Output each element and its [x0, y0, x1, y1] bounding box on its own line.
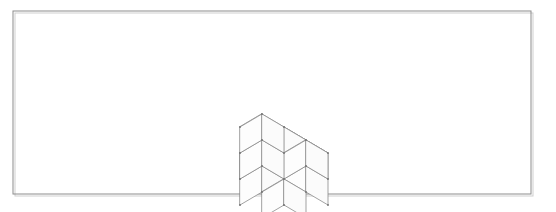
- cube-vertex-dot: [283, 204, 285, 206]
- cube-vertex-dot: [283, 126, 285, 128]
- cube-vertex-dot: [327, 152, 329, 154]
- cube-vertex-dot: [261, 139, 263, 141]
- cube-vertex-dot: [239, 204, 241, 206]
- cube-vertex-dot: [283, 178, 285, 180]
- figure-canvas: [0, 0, 556, 212]
- cube-group: [240, 114, 328, 212]
- cube-vertex-dot: [327, 178, 329, 180]
- cube-vertex-dot: [305, 139, 307, 141]
- cube-vertex-dot: [239, 126, 241, 128]
- isometric-cube-stack-figure: [0, 0, 556, 212]
- cube-vertex-dot: [261, 191, 263, 193]
- cube-vertex-dot: [305, 191, 307, 193]
- cube-vertex-dot: [239, 178, 241, 180]
- cube-vertex-dot: [239, 152, 241, 154]
- cube-vertex-dot: [261, 113, 263, 115]
- cube-vertex-dot: [261, 165, 263, 167]
- cube-vertex-dot: [327, 204, 329, 206]
- cube-vertex-dot: [305, 165, 307, 167]
- cube-vertex-dot: [283, 152, 285, 154]
